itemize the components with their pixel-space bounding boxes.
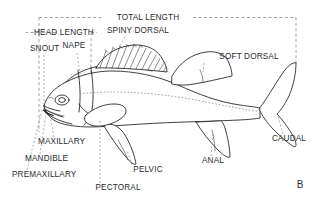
label-pelvic: PELVIC [133, 165, 162, 174]
leader-spiny-dorsal [119, 37, 125, 47]
label-soft-dorsal: SOFT DORSAL [219, 52, 279, 61]
label-snout: SNOUT [30, 44, 59, 53]
anal-fin [196, 121, 230, 157]
label-pectoral: PECTORAL [95, 183, 140, 192]
label-anal: ANAL [202, 156, 224, 165]
label-maxillary: MAXILLARY [38, 137, 86, 146]
label-nape: NAPE [63, 41, 86, 50]
panel-label: B [297, 179, 304, 190]
fish-anatomy-diagram: TOTAL LENGTH HEAD LENGTH SNOUT NAPE SPIN… [0, 0, 317, 199]
label-mandible: MANDIBLE [25, 154, 68, 163]
label-premaxillary: PREMAXILLARY [12, 170, 77, 179]
label-head-length: HEAD LENGTH [34, 28, 94, 37]
figure-canvas: TOTAL LENGTH HEAD LENGTH SNOUT NAPE SPIN… [0, 0, 317, 199]
pelvic-fin [104, 124, 136, 164]
leader-mandible [40, 114, 46, 154]
spiny-dorsal-fin [96, 45, 167, 73]
label-spiny-dorsal: SPINY DORSAL [107, 26, 169, 35]
label-caudal: CAUDAL [272, 134, 306, 143]
label-total-length: TOTAL LENGTH [117, 13, 180, 22]
